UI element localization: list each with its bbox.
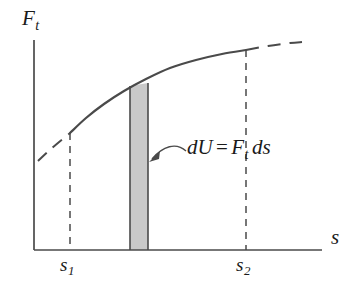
tick-label-s1-subscript: 1	[68, 263, 74, 278]
force-curve	[70, 50, 246, 133]
figure-container: Ft s s1 s2 dU=Ftds	[0, 0, 362, 287]
tick-label-s1: s1	[60, 255, 74, 278]
tick-label-s1-base: s	[60, 254, 67, 275]
y-axis-label-base: F	[22, 6, 35, 30]
tick-label-s2: s2	[236, 255, 250, 278]
curve-dashed-right-extension	[246, 42, 302, 50]
annotation-equals-sign: =	[216, 135, 228, 159]
annotation-F-subscript: t	[245, 146, 249, 162]
annotation-dU: dU	[187, 135, 213, 159]
tick-label-s2-base: s	[236, 254, 243, 275]
curve-dashed-left-extension	[38, 133, 70, 161]
y-axis-label: Ft	[22, 8, 39, 32]
figure-canvas	[0, 0, 362, 287]
x-axis-label: s	[331, 227, 339, 248]
annotation-ds: ds	[252, 135, 271, 159]
y-axis-label-subscript: t	[35, 17, 39, 33]
annotation-F: F	[231, 135, 244, 159]
annotation-arrow-icon	[149, 151, 160, 162]
annotation-dU-equals-Ft-ds: dU=Ftds	[187, 137, 271, 161]
shaded-strip-dU	[130, 83, 148, 250]
tick-label-s2-subscript: 2	[244, 263, 250, 278]
